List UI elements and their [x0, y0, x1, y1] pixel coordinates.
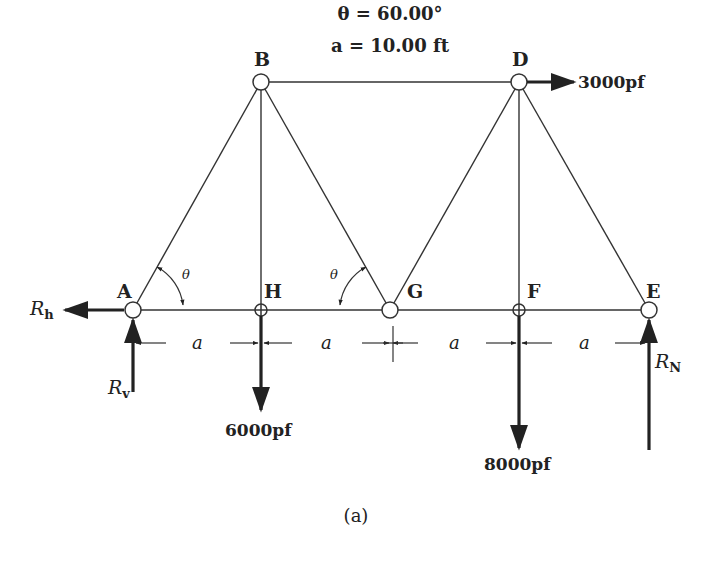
- dimension-lines: [136, 326, 645, 362]
- load-label-H: 6000pf: [225, 420, 293, 440]
- member-AB: [133, 82, 261, 310]
- angle-label-A: θ: [182, 267, 190, 282]
- load-label-D: 3000pf: [578, 72, 646, 92]
- reaction-label-Rv: Rv: [107, 376, 130, 401]
- reaction-label-Rh: Rh: [29, 297, 54, 322]
- node-label-A: A: [116, 280, 132, 302]
- node-label-F: F: [527, 280, 541, 302]
- joints: [125, 74, 657, 318]
- joint-A: [125, 302, 141, 318]
- member-BG: [261, 82, 390, 310]
- span-label-AH: a: [192, 332, 203, 353]
- angle-label-G: θ: [330, 267, 338, 282]
- span-label-GF: a: [449, 332, 460, 353]
- node-label-H: H: [264, 280, 282, 302]
- node-label-B: B: [254, 48, 270, 70]
- joint-B: [253, 74, 269, 90]
- span-label-HG: a: [321, 332, 332, 353]
- node-label-G: G: [407, 280, 423, 302]
- joint-D: [511, 74, 527, 90]
- load-label-F: 8000pf: [484, 454, 552, 474]
- node-label-E: E: [646, 280, 660, 302]
- member-GD: [390, 82, 519, 310]
- theta-parameter: θ = 60.00°: [338, 3, 443, 24]
- span-label-FE: a: [579, 332, 590, 353]
- member-DE: [519, 82, 649, 310]
- joint-G: [382, 302, 398, 318]
- figure-caption: (a): [344, 505, 369, 526]
- truss-diagram: θ = 60.00° a = 10.00 ft B D A H G F E 30…: [0, 0, 713, 564]
- node-label-D: D: [512, 48, 528, 70]
- truss-members: [133, 82, 649, 310]
- forces: [65, 82, 649, 450]
- reaction-label-RN: RN: [654, 350, 681, 375]
- joint-E: [641, 302, 657, 318]
- a-parameter: a = 10.00 ft: [331, 35, 450, 56]
